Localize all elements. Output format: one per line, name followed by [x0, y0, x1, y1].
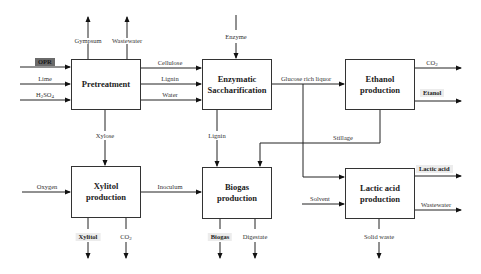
- xylitol-label-line2: production: [86, 192, 126, 203]
- ethanol-label-line1: Ethanol: [360, 74, 400, 85]
- enzymatic-label-line1: Enzymatic: [207, 74, 266, 85]
- co2-xylitol-label: CO2: [120, 233, 132, 241]
- lignin-down-label: Lignin: [208, 132, 225, 140]
- lignin-side-label: Lignin: [161, 75, 178, 83]
- process-flow-diagram: [0, 0, 481, 274]
- biogas-label-line1: Biogas: [217, 182, 257, 193]
- glucose-to-lactic-arrow: [303, 84, 344, 177]
- wastewater-lactic-label: Wastewater: [421, 201, 451, 209]
- xylitol-label-line1: Xylitol: [86, 181, 126, 192]
- ethanol-label-line2: production: [360, 85, 400, 96]
- glucose-label: Glucose rich liquor: [281, 75, 331, 83]
- water-label: Water: [162, 91, 177, 99]
- wastewater-top-label: Wastewater: [112, 37, 142, 45]
- xylitol-output-label: Xylitol: [76, 233, 101, 241]
- pretreatment-box: Pretreatment: [71, 59, 141, 110]
- lime-label: Lime: [38, 75, 52, 83]
- biogas-output-label: Biogas: [208, 233, 232, 241]
- solvent-label: Solvent: [310, 195, 330, 203]
- lactic-acid-production-box: Lactic acid production: [345, 168, 415, 219]
- opr-label: OPR: [35, 58, 55, 66]
- co2-ethanol-label: CO2: [426, 59, 438, 67]
- stillage-label: Stillage: [333, 134, 353, 142]
- h2so4-label: H2SO4: [36, 91, 54, 99]
- lactic-label-line2: production: [360, 194, 400, 205]
- stillage-arrow: [260, 109, 380, 166]
- biogas-label-line2: production: [217, 193, 257, 204]
- etanol-output-label: Etanol: [420, 89, 444, 97]
- ethanol-production-box: Ethanol production: [345, 59, 415, 110]
- xylitol-production-box: Xylitol production: [71, 166, 141, 218]
- enzymatic-label-line2: Saccharification: [207, 85, 266, 96]
- enzyme-label: Enzyme: [225, 33, 246, 41]
- pretreatment-label: Pretreatment: [82, 79, 130, 90]
- biogas-production-box: Biogas production: [202, 167, 272, 219]
- lactic-label-line1: Lactic acid: [360, 183, 400, 194]
- oxygen-label: Oxygen: [37, 183, 58, 191]
- enzymatic-saccharification-box: Enzymatic Saccharification: [202, 59, 272, 110]
- solid-waste-label: Solid waste: [364, 233, 394, 241]
- inoculum-label: Inoculum: [158, 183, 183, 191]
- digestate-label: Digestate: [243, 233, 268, 241]
- cellulose-label: Cellulose: [158, 59, 183, 67]
- xylose-label: Xylose: [96, 132, 114, 140]
- lactic-acid-output-label: Lactic acid: [416, 165, 453, 173]
- gympsum-label: Gympsum: [74, 37, 101, 45]
